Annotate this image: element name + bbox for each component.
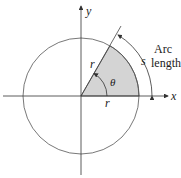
arc-title-line1: Arc [154, 42, 172, 56]
y-axis-label: y [85, 4, 92, 18]
diagram-canvas: y x r r θ s Arc length [0, 0, 181, 178]
arc-label: s [141, 54, 146, 68]
radius-label-slanted: r [90, 57, 95, 71]
arc-length-diagram: y x r r θ s Arc length [0, 0, 181, 178]
arc-title-line2: length [151, 56, 181, 70]
radius-label-horizontal: r [105, 96, 110, 110]
x-axis-label: x [170, 89, 177, 103]
angle-label: θ [110, 76, 116, 88]
